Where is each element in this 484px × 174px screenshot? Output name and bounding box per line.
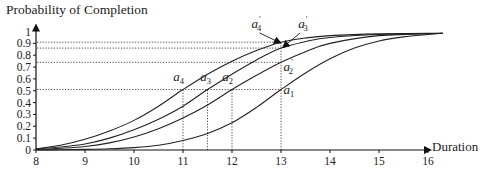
probability-completion-chart: 891011121314151600.10.20.30.40.50.60.70.…	[0, 0, 484, 174]
y-tick-label: 0.7	[17, 61, 32, 73]
x-tick-label: 16	[422, 155, 434, 167]
annotation-label: a′2	[283, 57, 293, 76]
x-tick-label: 13	[275, 155, 287, 167]
y-tick-label: 0.3	[17, 108, 32, 120]
curve-a2-curve	[36, 33, 443, 149]
annotation-label: a′3	[298, 14, 308, 33]
y-tick-label: 0	[25, 144, 31, 156]
annotation-arrow	[260, 33, 280, 43]
x-tick-label: 14	[324, 155, 336, 167]
curve-a1-curve	[36, 33, 443, 150]
annotation-label: a1	[283, 82, 294, 99]
y-tick-label: 0.5	[17, 85, 32, 97]
x-tick-label: 8	[33, 155, 39, 167]
annotation-label: a4	[173, 69, 185, 86]
reference-lines	[37, 42, 281, 150]
y-tick-label: 0.8	[17, 49, 32, 61]
curve-a4-curve	[36, 33, 443, 149]
annotation-label: a3	[200, 69, 211, 86]
y-tick-label: 1	[25, 26, 31, 38]
y-tick-label: 0.4	[17, 97, 32, 109]
curve-a3-curve	[36, 33, 443, 149]
axes: 891011121314151600.10.20.30.40.50.60.70.…	[17, 26, 434, 168]
x-tick-label: 11	[177, 155, 188, 167]
x-tick-label: 10	[128, 155, 140, 167]
x-tick-label: 9	[82, 155, 88, 167]
x-tick-label: 15	[373, 155, 385, 167]
curves	[36, 33, 443, 150]
y-tick-label: 0.2	[17, 120, 32, 132]
y-tick-label: 0.9	[17, 37, 32, 49]
annotation-label: a2	[222, 69, 233, 86]
y-tick-label: 0.1	[17, 132, 32, 144]
x-tick-label: 12	[226, 155, 238, 167]
annotation-label: a′4	[252, 14, 262, 33]
y-tick-label: 0.6	[17, 73, 32, 85]
